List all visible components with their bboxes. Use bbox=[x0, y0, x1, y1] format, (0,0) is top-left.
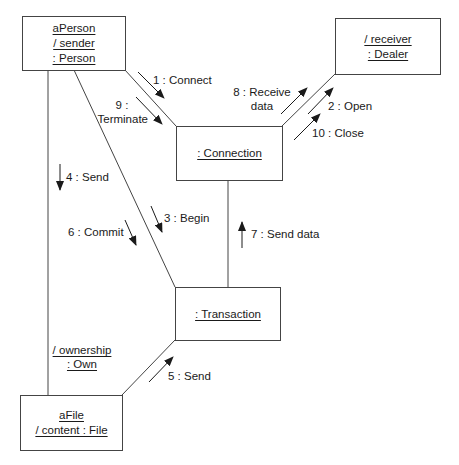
object-transaction-class: : Transaction bbox=[195, 307, 261, 322]
object-person: aPerson / sender : Person bbox=[22, 16, 126, 71]
message-2-label: 2 : Open bbox=[328, 99, 372, 113]
message-8-line2: data bbox=[232, 99, 292, 113]
link-ownership-label: / ownership : Own bbox=[50, 343, 114, 371]
message-8-line1: 8 : Receive bbox=[232, 85, 292, 99]
object-file-name: aFile bbox=[59, 408, 84, 423]
arrow-6-commit-icon bbox=[125, 220, 136, 245]
object-dealer-class: : Dealer bbox=[368, 47, 408, 62]
object-person-role: / sender bbox=[53, 36, 95, 51]
object-transaction: : Transaction bbox=[175, 287, 281, 341]
message-5-label: 5 : Send bbox=[168, 369, 211, 383]
object-dealer-role: / receiver bbox=[364, 32, 411, 47]
message-4-label: 4 : Send bbox=[66, 170, 109, 184]
arrow-3-begin-icon bbox=[151, 206, 162, 232]
object-person-name: aPerson bbox=[53, 21, 96, 36]
link-file-transaction bbox=[122, 340, 175, 395]
message-1-label: 1 : Connect bbox=[153, 73, 212, 87]
message-6-label: 6 : Commit bbox=[68, 225, 124, 239]
message-8-label: 8 : Receive data bbox=[232, 85, 292, 113]
message-10-label: 10 : Close bbox=[312, 126, 364, 140]
message-9-label: 9 : Terminate bbox=[96, 98, 148, 126]
message-3-label: 3 : Begin bbox=[164, 211, 209, 225]
object-connection-class: : Connection bbox=[197, 146, 262, 161]
object-connection: : Connection bbox=[176, 126, 283, 181]
object-file-role: / content : File bbox=[35, 423, 107, 438]
message-7-label: 7 : Send data bbox=[251, 227, 319, 241]
object-person-class: : Person bbox=[53, 51, 96, 66]
link-ownership-class: : Own bbox=[50, 357, 114, 371]
object-dealer: / receiver : Dealer bbox=[335, 18, 441, 75]
object-file: aFile / content : File bbox=[20, 395, 123, 451]
message-9-line2: Terminate bbox=[96, 112, 148, 126]
link-ownership-role: / ownership bbox=[50, 343, 114, 357]
message-9-line1: 9 : bbox=[96, 98, 148, 112]
